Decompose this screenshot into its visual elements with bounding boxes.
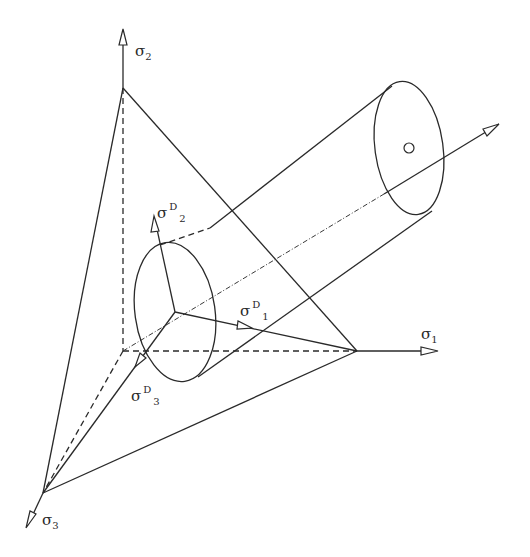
sigmaD1-label: σD1 [240, 304, 269, 319]
sigma1-subscript: 1 [431, 334, 437, 345]
sigmaD2-subscript: 2 [179, 213, 185, 224]
plane-edge-2-3 [43, 88, 123, 493]
sigmaD1-subscript: 1 [262, 311, 268, 322]
hydrostatic-axis [384, 127, 494, 194]
sigma2-label: σ2 [135, 44, 152, 62]
sigmaD3-superscript: D [143, 384, 151, 395]
back-center-marker-icon [404, 143, 414, 153]
sigmaD1-symbol: σ [240, 302, 250, 320]
sigmaD1-superscript: D [252, 299, 260, 310]
hydrostatic-arrowhead-icon [483, 124, 499, 136]
sigmaD3-subscript: 3 [153, 396, 159, 407]
sigmaD2-label: σD2 [157, 206, 186, 221]
plane-edge-3-1 [43, 351, 357, 493]
sigmaD3-symbol: σ [131, 387, 141, 405]
sigma3-arrowhead-icon [26, 511, 36, 528]
sigma2-symbol: σ [135, 42, 145, 60]
sigmaD2-superscript: D [169, 201, 177, 212]
sigma2-arrowhead-icon [119, 29, 127, 45]
sigma3-subscript: 3 [52, 520, 58, 531]
sigma3-symbol: σ [42, 511, 52, 529]
sigmaD3-label: σD3 [131, 389, 160, 404]
sigma3-label: σ3 [42, 513, 59, 531]
hidden-axis-3 [43, 351, 123, 493]
cylinder-top-generator [210, 86, 392, 228]
sigmaD2-symbol: σ [157, 204, 167, 222]
sigma1-label: σ1 [421, 327, 438, 345]
stress-space-diagram [0, 0, 530, 557]
sigmaD2-vector [155, 220, 175, 312]
sigma1-symbol: σ [421, 325, 431, 343]
sigma2-subscript: 2 [145, 51, 151, 62]
sigma1-arrowhead-icon [421, 347, 438, 355]
sigmaD1-arrowhead-icon [237, 321, 252, 329]
